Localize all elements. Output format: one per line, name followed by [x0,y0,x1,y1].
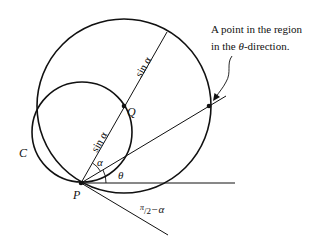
annotation-line2: in the θ-direction. [211,40,290,52]
label-sin-alpha-upper: sin α [132,54,153,79]
point-P [79,181,84,186]
circle-C [32,82,132,182]
point-Q [122,104,127,109]
label-P: P [72,188,81,202]
label-Q: Q [127,105,136,119]
label-sin-alpha-lower: sin α [88,129,109,154]
polar-region-diagram: A point in the region in the θ-direction… [0,0,321,251]
point-region [207,104,212,109]
label-C: C [19,146,28,160]
annotation-line1: A point in the region [211,23,303,35]
pointer-arrow [216,56,232,97]
label-alpha: α [97,156,103,168]
label-theta: θ [118,169,124,181]
label-pi-over-2-minus-alpha: π/2−α [140,203,164,216]
